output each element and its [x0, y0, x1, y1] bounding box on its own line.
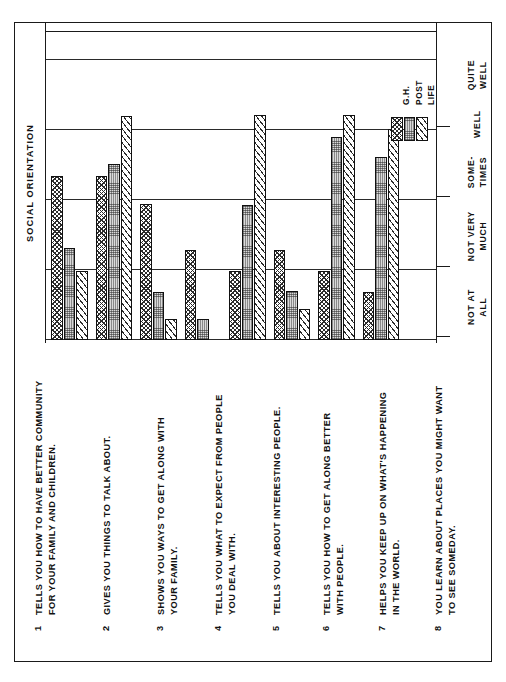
list-item-number: 3 — [155, 615, 165, 631]
legend-swatch-gh — [391, 117, 403, 141]
bar-post-item1 — [64, 248, 76, 340]
legend-label-post: POST — [414, 80, 424, 105]
list-item-text: TELLS YOU ABOUT INTERESTING PEOPLE. — [271, 406, 284, 615]
list-item-text: YOU LEARN ABOUT PLACES YOU MIGHT WANT TO… — [433, 386, 459, 616]
list-item-number: 4 — [213, 615, 223, 631]
list-item: 1TELLS YOU HOW TO HAVE BETTER COMMUNITY … — [33, 211, 59, 631]
list-item: 3SHOWS YOU WAYS TO GET ALONG WITH YOUR F… — [155, 211, 181, 631]
list-item-text: TELLS YOU HOW TO HAVE BETTER COMMUNITY F… — [33, 380, 59, 615]
scale-label-text: NOT AT — [466, 289, 476, 325]
scale-label-text: WELL — [472, 110, 482, 138]
scale-tick-mark-3 — [437, 126, 450, 127]
list-item-text: SHOWS YOU WAYS TO GET ALONG WITH YOUR FA… — [155, 417, 181, 615]
bar-life-item1 — [76, 271, 88, 340]
list-item-number: 8 — [433, 615, 443, 631]
scale-label-text: QUITE — [466, 60, 476, 91]
scale-label-text: ALL — [478, 298, 488, 317]
list-item: 8YOU LEARN ABOUT PLACES YOU MIGHT WANT T… — [433, 211, 459, 631]
list-item-text: HELPS YOU KEEP UP ON WHAT'S HAPPENING IN… — [377, 392, 403, 615]
scale-label-text: MUCH — [478, 221, 488, 250]
bar-post-item6 — [286, 291, 298, 340]
legend-label-gh: G.H. — [401, 86, 411, 105]
bar-gh-item4 — [185, 250, 197, 340]
list-item-text: TELLS YOU WHAT TO EXPECT FROM PEOPLE YOU… — [213, 394, 239, 615]
scale-label-text: TIMES — [478, 156, 488, 187]
legend-label-life: LIFE — [426, 85, 436, 105]
bar-life-item5 — [254, 115, 266, 340]
list-item-number: 7 — [377, 615, 387, 631]
list-item: 4TELLS YOU WHAT TO EXPECT FROM PEOPLE YO… — [213, 211, 239, 631]
list-item: 2GIVES YOU THINGS TO TALK ABOUT. — [101, 211, 114, 631]
scale-label-text: SOME- — [466, 155, 476, 187]
list-item: 5TELLS YOU ABOUT INTERESTING PEOPLE. — [271, 211, 284, 631]
list-item-number: 6 — [321, 615, 331, 631]
legend-swatch-post — [404, 117, 416, 141]
item-list-panel: 1TELLS YOU HOW TO HAVE BETTER COMMUNITY … — [15, 345, 491, 661]
scale-label-text: WELL — [478, 61, 488, 89]
scale-label-text: NOT VERY — [466, 211, 476, 261]
bar-post-item5 — [242, 205, 254, 340]
list-item-number: 2 — [101, 615, 111, 631]
item-list: 1TELLS YOU HOW TO HAVE BETTER COMMUNITY … — [15, 345, 491, 661]
bar-post-item4 — [197, 319, 209, 340]
chart-panel: SOCIAL ORIENTATION G.H.POSTLIFE NOT ATAL… — [15, 23, 491, 343]
bar-life-item2 — [121, 116, 133, 340]
list-item-text: GIVES YOU THINGS TO TALK ABOUT. — [101, 435, 114, 615]
list-item-number: 1 — [33, 615, 43, 631]
bar-gh-item3 — [140, 204, 152, 341]
list-item: 7HELPS YOU KEEP UP ON WHAT'S HAPPENING I… — [377, 211, 403, 631]
legend-swatch-life — [416, 117, 428, 141]
bar-life-item6 — [299, 309, 311, 340]
list-item: 6TELLS YOU HOW TO GET ALONG BETTER WITH … — [321, 211, 347, 631]
list-item-text: TELLS YOU HOW TO GET ALONG BETTER WITH P… — [321, 412, 347, 615]
bar-gh-item8 — [363, 292, 375, 340]
scale-tick-mark-2 — [437, 196, 450, 197]
list-item-number: 5 — [271, 615, 281, 631]
chart-page: SOCIAL ORIENTATION G.H.POSTLIFE NOT ATAL… — [0, 0, 506, 682]
